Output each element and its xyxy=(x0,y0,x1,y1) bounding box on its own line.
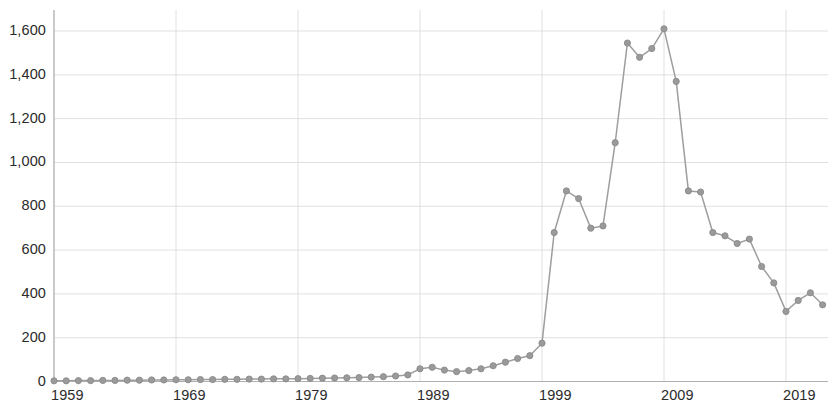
data-point-marker xyxy=(380,374,386,380)
data-point-marker xyxy=(75,378,81,384)
data-point-marker xyxy=(124,377,130,383)
data-point-marker xyxy=(612,140,618,146)
y-axis-tick-label: 600 xyxy=(0,241,46,257)
x-axis-tick-label: 1979 xyxy=(295,387,328,403)
data-point-marker xyxy=(332,375,338,381)
data-point-marker xyxy=(807,290,813,296)
data-point-marker xyxy=(88,378,94,384)
data-point-marker xyxy=(661,26,667,32)
y-axis-tick-label: 1,600 xyxy=(0,22,46,38)
y-axis-tick-label: 800 xyxy=(0,197,46,213)
data-point-marker xyxy=(368,374,374,380)
data-point-marker xyxy=(185,377,191,383)
data-point-marker xyxy=(319,375,325,381)
data-point-marker xyxy=(173,377,179,383)
data-point-marker xyxy=(539,340,545,346)
data-point-marker xyxy=(222,376,228,382)
data-point-marker xyxy=(271,376,277,382)
data-point-marker xyxy=(600,223,606,229)
data-point-marker xyxy=(563,188,569,194)
data-point-marker xyxy=(502,359,508,365)
data-point-marker xyxy=(734,240,740,246)
data-point-marker xyxy=(478,366,484,372)
data-point-marker xyxy=(637,54,643,60)
chart-canvas xyxy=(0,0,831,413)
x-axis-tick-label: 2019 xyxy=(783,387,816,403)
data-point-marker xyxy=(673,78,679,84)
data-point-marker xyxy=(588,225,594,231)
data-point-marker xyxy=(649,45,655,51)
data-point-marker xyxy=(783,308,789,314)
data-point-marker xyxy=(295,376,301,382)
data-point-marker xyxy=(344,375,350,381)
data-point-marker xyxy=(527,353,533,359)
data-point-marker xyxy=(149,377,155,383)
data-point-marker xyxy=(246,376,252,382)
x-axis-tick-label: 1999 xyxy=(539,387,572,403)
line-chart: 02004006008001,0001,2001,4001,600 195919… xyxy=(0,0,831,413)
y-axis-tick-label: 1,200 xyxy=(0,110,46,126)
y-axis-tick-label: 1,000 xyxy=(0,153,46,169)
data-point-marker xyxy=(466,367,472,373)
x-axis-tick-label: 2009 xyxy=(661,387,694,403)
data-point-marker xyxy=(429,364,435,370)
data-point-marker xyxy=(283,376,289,382)
data-point-marker xyxy=(795,297,801,303)
data-point-marker xyxy=(454,369,460,375)
data-point-marker xyxy=(307,375,313,381)
y-axis-tick-label: 400 xyxy=(0,285,46,301)
data-point-marker xyxy=(746,236,752,242)
data-point-marker xyxy=(100,377,106,383)
data-point-marker xyxy=(771,280,777,286)
data-point-marker xyxy=(710,229,716,235)
data-point-marker xyxy=(393,373,399,379)
y-axis-tick-label: 0 xyxy=(0,373,46,389)
data-point-marker xyxy=(515,355,521,361)
data-point-marker xyxy=(624,40,630,46)
data-point-marker xyxy=(490,363,496,369)
data-point-marker xyxy=(51,378,57,384)
data-point-marker xyxy=(197,376,203,382)
data-point-marker xyxy=(685,188,691,194)
x-axis-tick-label: 1989 xyxy=(417,387,450,403)
data-point-marker xyxy=(258,376,264,382)
x-axis-tick-label: 1959 xyxy=(51,387,84,403)
x-axis-tick-label: 1969 xyxy=(173,387,206,403)
data-point-marker xyxy=(759,263,765,269)
data-point-marker xyxy=(136,377,142,383)
data-point-marker xyxy=(722,233,728,239)
y-axis-tick-label: 1,400 xyxy=(0,66,46,82)
data-point-marker xyxy=(161,377,167,383)
data-point-marker xyxy=(417,366,423,372)
data-point-marker xyxy=(63,378,69,384)
data-point-marker xyxy=(356,374,362,380)
data-point-marker xyxy=(405,372,411,378)
data-point-marker xyxy=(576,195,582,201)
data-point-marker xyxy=(698,189,704,195)
data-point-marker xyxy=(234,376,240,382)
data-point-marker xyxy=(210,376,216,382)
data-point-marker xyxy=(820,302,826,308)
data-point-marker xyxy=(112,377,118,383)
y-axis-tick-label: 200 xyxy=(0,329,46,345)
data-point-marker xyxy=(441,367,447,373)
data-point-marker xyxy=(551,229,557,235)
data-line xyxy=(54,29,823,381)
